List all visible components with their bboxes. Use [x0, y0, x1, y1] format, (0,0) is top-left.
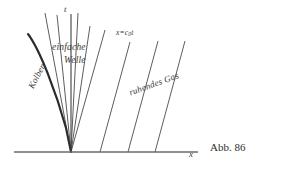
- label-characteristic-x-equals-c0t: x=c0t: [116, 29, 134, 38]
- characteristic-head: x=c: [116, 28, 128, 37]
- characteristic-tail: t: [131, 28, 133, 37]
- axis-label-x: x: [189, 150, 193, 159]
- figure-abb-86: einfache Welle Kolben ruhendes Gas x=c0t…: [0, 0, 284, 170]
- axis-label-t: t: [64, 5, 67, 14]
- label-einfache-welle-line2: Welle: [64, 56, 86, 66]
- label-einfache-welle-line1: einfache: [52, 43, 86, 53]
- fan-characteristic-2: [57, 15, 71, 152]
- simple-wave-fan: [45, 13, 105, 152]
- resting-gas-characteristic-3: [155, 41, 185, 152]
- resting-gas-characteristics: [100, 41, 185, 152]
- resting-gas-characteristic-1: [100, 42, 130, 152]
- figure-caption: Abb. 86: [210, 141, 245, 153]
